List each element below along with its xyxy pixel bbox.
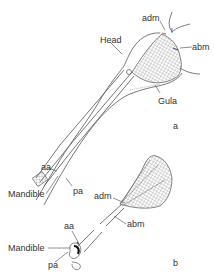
label-head: Head: [100, 35, 122, 45]
label-pa-b: pa: [48, 260, 58, 270]
insect-head-mandible-muscle-diagram: Head adm abm Gula aa Mandible pa a: [0, 0, 214, 274]
pa-leader-a: [66, 178, 72, 186]
label-mandible-a: Mandible: [8, 189, 45, 199]
label-adm-a: adm: [142, 13, 160, 23]
muscle-fan-b: [120, 156, 172, 209]
label-abm-a: abm: [192, 42, 210, 52]
cheek-outline: [180, 68, 200, 74]
mandible-b: [69, 242, 80, 270]
label-adm-b: adm: [94, 191, 112, 201]
adductor-tendon-a: [40, 72, 132, 182]
abm-leader-a: [180, 47, 192, 48]
panel-a: Head adm abm Gula aa Mandible pa a: [8, 12, 210, 205]
abm-leader-b: [114, 216, 126, 224]
label-gula: Gula: [158, 96, 177, 106]
panel-label-a: a: [173, 121, 178, 131]
adm-marker: [162, 33, 166, 34]
label-aa-a: aa: [41, 162, 51, 172]
aa-leader-b: [72, 231, 78, 242]
label-abm-b: abm: [127, 219, 145, 229]
mandible-leader-a: [46, 176, 58, 194]
adm-leader-a: [160, 21, 165, 30]
panel-b: adm abm aa Mandible pa b: [8, 156, 178, 270]
muscle-mass-a: [132, 34, 181, 83]
panel-label-b: b: [173, 258, 178, 268]
label-pa-a: pa: [73, 186, 83, 196]
label-mandible-b: Mandible: [8, 243, 45, 253]
abm-tendon-b-lower: [84, 232, 102, 252]
label-aa-b: aa: [64, 221, 74, 231]
